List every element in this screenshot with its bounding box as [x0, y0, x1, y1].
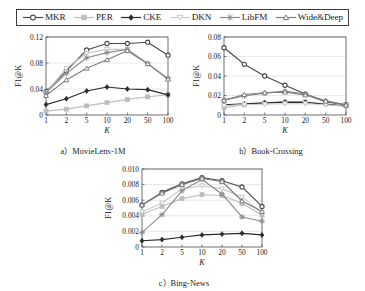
- chart-panel-movielens: 00.040.080.12125102050100KF1@K a）MovieLe…: [12, 30, 174, 158]
- legend-entry-mkr[interactable]: MKR: [22, 12, 66, 23]
- x-tick-label: 20: [302, 116, 310, 125]
- legend-marker-triangle-up-icon: [275, 12, 297, 23]
- x-tick-label: 20: [124, 116, 132, 125]
- x-tick-label: 1: [44, 116, 48, 125]
- y-tick-label: 0.004: [122, 211, 139, 220]
- x-tick-label: 50: [144, 116, 152, 125]
- y-tick-label: 0: [217, 111, 221, 120]
- x-tick-label: 10: [281, 116, 289, 125]
- x-tick-label: 2: [160, 248, 164, 257]
- legend-label: PER: [96, 13, 113, 22]
- y-tick-label: 0.008: [122, 180, 139, 189]
- y-tick-label: 0.04: [30, 85, 43, 94]
- y-tick-label: 0.02: [208, 91, 221, 100]
- chart-panel-bingnews: 00.0020.0040.0060.0080.010125102050100KF…: [100, 162, 268, 290]
- x-tick-label: 100: [162, 116, 173, 125]
- y-tick-label: 0.08: [30, 59, 43, 68]
- x-tick-label: 5: [180, 248, 184, 257]
- x-tick-label: 1: [222, 116, 226, 125]
- legend-entry-wide-deep[interactable]: Wide&Deep: [275, 12, 343, 23]
- x-tick-label: 50: [238, 248, 246, 257]
- legend-entry-cke[interactable]: CKE: [120, 12, 161, 23]
- y-axis-title: F1@K: [192, 65, 201, 87]
- legend-label: MKR: [45, 13, 66, 22]
- y-axis-title: F1@K: [14, 65, 23, 87]
- y-tick-label: 0.04: [208, 72, 221, 81]
- legend-marker-diamond-icon: [120, 12, 142, 23]
- legend-marker-star-icon: [219, 12, 241, 23]
- chart-caption-c: c）Bing-News: [100, 276, 268, 288]
- x-axis-title: K: [103, 126, 110, 135]
- x-axis-title: K: [198, 258, 205, 267]
- x-tick-label: 100: [340, 116, 351, 125]
- x-tick-label: 1: [140, 248, 144, 257]
- y-tick-label: 0.12: [30, 33, 43, 42]
- x-tick-label: 50: [322, 116, 330, 125]
- series-cke: [140, 231, 264, 243]
- y-tick-label: 0.08: [208, 33, 221, 42]
- legend-entry-libfm[interactable]: LibFM: [219, 12, 268, 23]
- y-tick-label: 0.006: [122, 196, 139, 205]
- legend-marker-circle-icon: [22, 12, 44, 23]
- x-tick-label: 2: [242, 116, 246, 125]
- y-tick-label: 0.010: [122, 165, 139, 174]
- legend-entry-per[interactable]: PER: [73, 12, 113, 23]
- y-tick-label: 0: [135, 243, 139, 252]
- x-tick-label: 5: [85, 116, 89, 125]
- y-tick-label: 0.002: [122, 227, 139, 236]
- x-axis-title: K: [281, 126, 288, 135]
- x-tick-label: 10: [198, 248, 206, 257]
- x-tick-label: 5: [263, 116, 267, 125]
- x-tick-label: 10: [103, 116, 111, 125]
- chart-svg-b: 00.020.040.060.08125102050100KF1@K: [190, 30, 352, 143]
- legend-entry-dkn[interactable]: DKN: [169, 12, 212, 23]
- legend-label: LibFM: [242, 13, 268, 22]
- legend-label: DKN: [192, 13, 212, 22]
- chart-caption-a: a）MovieLens-1M: [12, 144, 174, 156]
- x-tick-label: 20: [218, 248, 226, 257]
- series-dkn: [140, 184, 265, 215]
- chart-svg-c: 00.0020.0040.0060.0080.010125102050100KF…: [100, 162, 268, 275]
- chart-legend: MKRPERCKEDKNLibFMWide&Deep: [16, 9, 349, 26]
- chart-panel-bookcrossing: 00.020.040.060.08125102050100KF1@K b）Boo…: [190, 30, 352, 158]
- legend-label: Wide&Deep: [298, 13, 343, 22]
- y-axis-title: F1@K: [104, 197, 113, 219]
- y-tick-label: 0.06: [208, 52, 221, 61]
- x-tick-label: 100: [256, 248, 267, 257]
- y-tick-label: 0: [39, 111, 43, 120]
- chart-caption-b: b）Book-Crossing: [190, 144, 352, 156]
- x-tick-label: 2: [64, 116, 68, 125]
- chart-svg-a: 00.040.080.12125102050100KF1@K: [12, 30, 174, 143]
- series-per: [44, 93, 170, 113]
- legend-marker-triangle-down-icon: [169, 12, 191, 23]
- legend-marker-square-icon: [73, 12, 95, 23]
- legend-label: CKE: [143, 13, 161, 22]
